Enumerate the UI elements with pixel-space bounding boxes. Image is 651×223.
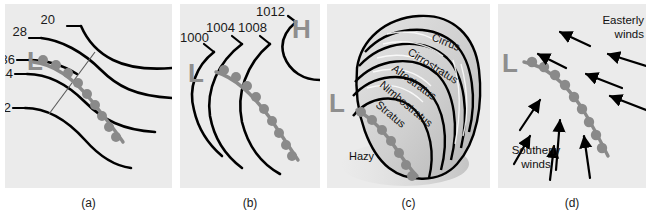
- panel-a-isotherms: L 20 28 36 44 52: [5, 4, 172, 188]
- panel-a-graphic: L 20 28 36 44 52: [5, 4, 172, 188]
- warm-front-line-d: [524, 62, 608, 156]
- panel-caption-d: (d): [498, 196, 646, 210]
- panel-b-graphic: L H 1000 1004 1008 1012: [180, 4, 320, 188]
- high-pressure-symbol-b: H: [292, 14, 311, 44]
- weather-front-figure: L 20 28 36 44 52: [0, 0, 651, 223]
- panel-caption-a: (a): [5, 196, 172, 210]
- isotherm-label-20: 20: [41, 12, 55, 27]
- easterly-arrow-1: [560, 32, 590, 46]
- isobar-1000-leader: [204, 44, 214, 52]
- isotherm-label-44: 44: [5, 66, 13, 81]
- warm-front-bumps-d: [527, 57, 607, 153]
- isobar-1008-leader: [260, 36, 270, 44]
- panel-caption-c: (c): [327, 196, 490, 210]
- isobar-label-1004: 1004: [206, 20, 235, 35]
- panel-d-graphic: L Easterly winds Southerly winds: [498, 4, 646, 188]
- isotherm-label-52: 52: [5, 100, 11, 115]
- isobar-label-1012: 1012: [256, 4, 285, 19]
- panel-c-graphic: Cirrus Cirrostratus Altostratus Nimbostr…: [327, 4, 490, 188]
- low-pressure-symbol-c: L: [329, 88, 345, 118]
- isobar-1004-leader: [232, 36, 242, 44]
- cloud-label-hazy: Hazy: [349, 150, 375, 162]
- isobar-label-1000: 1000: [180, 30, 209, 45]
- low-pressure-symbol-b: L: [188, 58, 204, 88]
- easterly-arrow-5: [610, 96, 646, 110]
- isotherm-label-36: 36: [5, 52, 15, 67]
- isotherm-label-28: 28: [13, 24, 27, 39]
- easterly-arrow-3: [608, 54, 646, 66]
- panel-caption-b: (b): [180, 196, 320, 210]
- low-pressure-symbol-a: L: [27, 46, 43, 76]
- southerly-winds-label-line1: Southerly: [512, 144, 561, 156]
- panel-d-winds: L Easterly winds Southerly winds: [498, 4, 646, 188]
- easterly-winds-label-line1: Easterly: [602, 14, 644, 26]
- southerly-arrow-5: [584, 136, 590, 178]
- southerly-winds-label-line2: winds: [520, 158, 551, 170]
- low-pressure-symbol-d: L: [502, 48, 518, 78]
- easterly-winds-label-line2: winds: [614, 28, 645, 40]
- panel-c-cloud-sequence: Cirrus Cirrostratus Altostratus Nimbostr…: [327, 4, 490, 188]
- isobar-label-1008: 1008: [238, 20, 267, 35]
- easterly-arrow-4: [586, 74, 622, 88]
- southerly-arrow-1: [520, 100, 540, 130]
- panel-b-isobars: L H 1000 1004 1008 1012: [180, 4, 320, 188]
